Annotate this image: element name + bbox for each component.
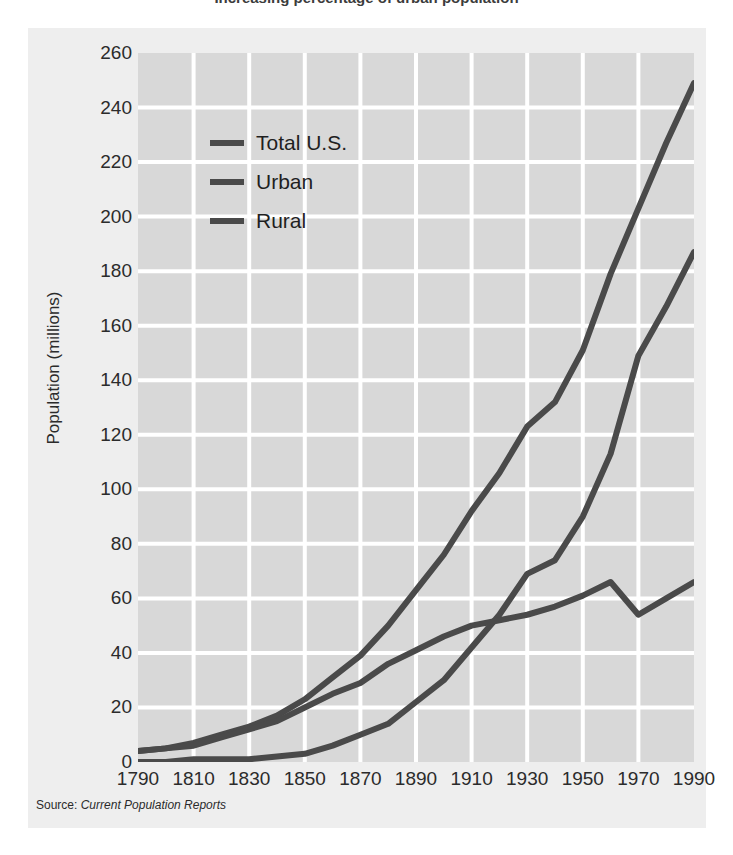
y-tick-label: 120: [76, 424, 132, 446]
x-tick-label: 1850: [284, 768, 326, 790]
source-note: Source: Current Population Reports: [36, 798, 226, 812]
x-tick-label: 1910: [450, 768, 492, 790]
source-title: Current Population Reports: [81, 798, 226, 812]
legend-swatch-icon: [210, 140, 244, 146]
series-line-1: [138, 252, 694, 762]
x-tick-label: 1990: [673, 768, 715, 790]
legend-item-0: Total U.S.: [210, 123, 347, 162]
y-tick-label: 180: [76, 260, 132, 282]
x-tick-label: 1970: [617, 768, 659, 790]
x-tick-label: 1790: [117, 768, 159, 790]
x-tick-label: 1810: [172, 768, 214, 790]
y-tick-label: 260: [76, 42, 132, 64]
y-tick-label: 160: [76, 315, 132, 337]
y-tick-label: 140: [76, 369, 132, 391]
y-tick-label: 20: [76, 696, 132, 718]
legend: Total U.S.UrbanRural: [210, 123, 347, 240]
source-prefix: Source:: [36, 798, 77, 812]
y-axis-title: Population (millions): [44, 258, 64, 478]
y-tick-label: 240: [76, 97, 132, 119]
x-tick-label: 1890: [395, 768, 437, 790]
title-strip: Increasing percentage of urban populatio…: [0, 0, 733, 13]
y-axis-ticks: 020406080100120140160180200220240260: [68, 53, 132, 762]
legend-item-2: Rural: [210, 201, 347, 240]
y-tick-label: 100: [76, 478, 132, 500]
chart-title: Increasing percentage of urban populatio…: [0, 0, 733, 6]
x-tick-label: 1870: [339, 768, 381, 790]
y-tick-label: 220: [76, 151, 132, 173]
figure-panel: Population (millions) 020406080100120140…: [28, 28, 706, 828]
plot-area: Total U.S.UrbanRural: [138, 53, 694, 762]
x-tick-label: 1950: [562, 768, 604, 790]
series-line-2: [138, 582, 694, 751]
legend-item-1: Urban: [210, 162, 347, 201]
y-tick-label: 80: [76, 533, 132, 555]
x-tick-label: 1930: [506, 768, 548, 790]
y-tick-label: 200: [76, 206, 132, 228]
legend-swatch-icon: [210, 179, 244, 185]
y-tick-label: 40: [76, 642, 132, 664]
legend-label: Rural: [256, 209, 306, 233]
x-tick-label: 1830: [228, 768, 270, 790]
legend-label: Urban: [256, 170, 313, 194]
x-axis-ticks: 1790181018301850187018901910193019501970…: [138, 768, 694, 798]
y-tick-label: 60: [76, 587, 132, 609]
legend-label: Total U.S.: [256, 131, 347, 155]
legend-swatch-icon: [210, 218, 244, 224]
